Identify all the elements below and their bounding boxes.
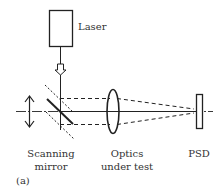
focused-beam-lower [117, 113, 194, 125]
optical-setup-diagram: Laser Scanning mirror Optics under test … [0, 0, 223, 194]
panel-label: (a) [16, 175, 30, 186]
optics-label-line1: Optics [111, 148, 144, 159]
optics-label-line2: under test [101, 161, 153, 172]
mirror-label-line2: mirror [34, 161, 67, 172]
laser-label: Laser [78, 21, 107, 32]
mirror-label-line1: Scanning [27, 148, 75, 159]
psd-detector [197, 95, 203, 129]
beam-direction-arrow-icon [55, 64, 66, 75]
laser-box [50, 11, 73, 47]
psd-label: PSD [188, 148, 210, 159]
focused-beam-upper [117, 99, 194, 110]
